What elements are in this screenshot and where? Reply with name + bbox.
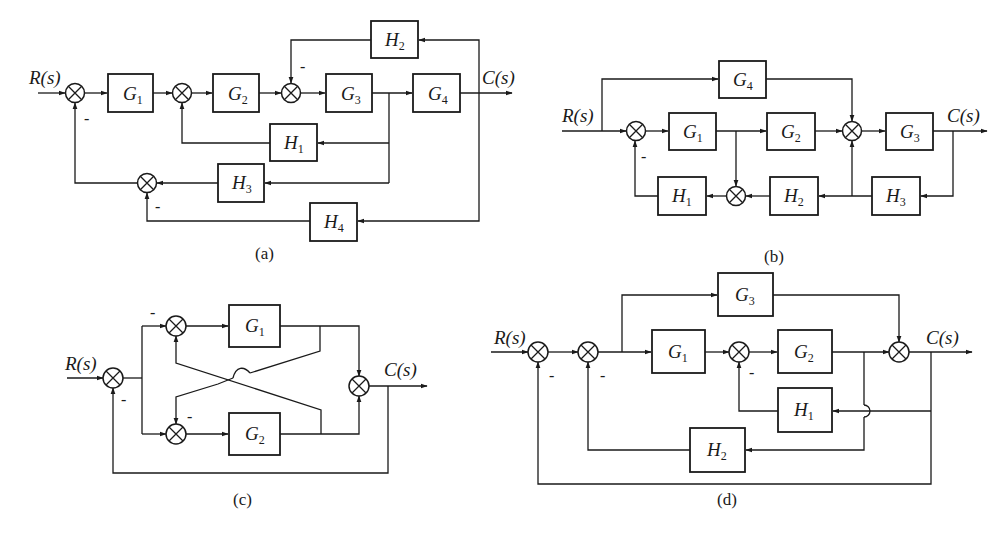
summing-junction-icon [282, 84, 301, 103]
block-b-H1: H1 [658, 177, 706, 215]
minus-sign: - [84, 110, 89, 127]
summing-junction-icon [627, 122, 646, 141]
block-d-H2: H2 [690, 428, 745, 472]
summing-junction-icon [578, 342, 598, 362]
minus-sign: - [549, 367, 554, 384]
block-a-G1: G1 [108, 74, 153, 112]
diagram-d: G1 G2 G3 H1 H2 - - - R(s) C(s) (d) [491, 273, 972, 509]
block-b-H2: H2 [770, 177, 818, 215]
block-b-G2: G2 [767, 113, 815, 150]
block-c-G1: G1 [229, 305, 280, 347]
summing-junctions-a [66, 84, 301, 193]
minus-sign: - [300, 58, 305, 75]
summing-junction-icon [349, 376, 369, 396]
panel-caption: (d) [717, 490, 737, 509]
diagram-a: G1 G2 G3 G4 H1 H2 H3 H4 [28, 21, 515, 263]
panel-caption: (b) [764, 247, 784, 266]
block-d-H1: H1 [778, 388, 832, 432]
block-a-G2: G2 [213, 74, 259, 112]
summing-junction-icon [66, 84, 85, 103]
output-signal-label: C(s) [384, 359, 417, 381]
block-b-H3: H3 [872, 177, 920, 215]
input-signal-label: R(s) [64, 353, 97, 375]
minus-sign: - [121, 391, 126, 408]
block-b-G4: G4 [719, 61, 766, 98]
summing-junction-icon [138, 174, 157, 193]
block-c-G2: G2 [229, 413, 280, 455]
summing-junction-icon [166, 424, 186, 444]
block-a-G3: G3 [326, 74, 372, 112]
summing-junction-icon [729, 342, 749, 362]
summing-junction-icon [166, 316, 186, 336]
summing-junction-icon [889, 342, 909, 362]
diagram-b: G1 G2 G3 G4 H1 H2 H3 [561, 61, 987, 266]
input-signal-label: R(s) [28, 67, 61, 89]
output-signal-label: C(s) [947, 105, 980, 127]
summing-junction-icon [173, 84, 192, 103]
minus-sign: - [749, 364, 754, 381]
block-d-G1: G1 [652, 330, 705, 373]
output-signal-label: C(s) [926, 327, 959, 349]
summing-junction-icon [843, 122, 862, 141]
input-signal-label: R(s) [493, 327, 526, 349]
block-a-H3: H3 [218, 164, 264, 202]
minus-sign: - [187, 408, 192, 425]
input-signal-label: R(s) [561, 105, 594, 127]
diagram-c: G1 G2 - - - R(s) C(s) (c) [64, 304, 427, 509]
panel-caption: (a) [255, 244, 274, 263]
block-d-G2: G2 [778, 330, 832, 373]
block-b-G3: G3 [886, 113, 933, 150]
summing-junction-icon [727, 187, 746, 206]
minus-sign: - [155, 198, 160, 215]
block-a-H1: H1 [270, 124, 317, 161]
block-b-G1: G1 [669, 113, 716, 150]
minus-sign: - [600, 367, 605, 384]
block-a-H4: H4 [310, 203, 357, 241]
minus-sign: - [150, 304, 155, 321]
output-signal-label: C(s) [482, 67, 515, 89]
block-a-G4: G4 [413, 74, 460, 112]
summing-junction-icon [528, 342, 548, 362]
minus-sign: - [641, 148, 646, 165]
block-a-H2: H2 [371, 21, 418, 58]
panel-caption: (c) [233, 490, 252, 509]
block-d-G3: G3 [718, 273, 773, 316]
summing-junction-icon [103, 368, 123, 388]
